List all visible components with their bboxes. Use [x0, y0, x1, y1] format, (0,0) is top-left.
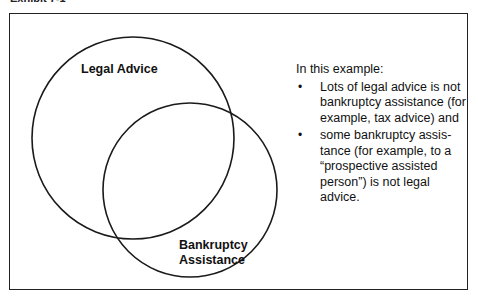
notes-list: • Lots of legal advice is not bankruptcy…: [296, 80, 466, 206]
notes-bullet-item: • some bankruptcy assis-tance (for examp…: [296, 128, 466, 206]
bankruptcy-label-line1: Bankruptcy: [179, 238, 248, 253]
notes-bullet-item: • Lots of legal advice is not bankruptcy…: [296, 80, 466, 127]
legal-advice-label: Legal Advice: [81, 62, 158, 77]
notes-bullet-text: Lots of legal advice is not bankruptcy a…: [320, 80, 466, 125]
notes-intro: In this example:: [296, 62, 466, 78]
explanation-notes: In this example: • Lots of legal advice …: [296, 62, 466, 208]
bankruptcy-assistance-label: Bankruptcy Assistance: [179, 238, 248, 268]
bullet-icon: •: [298, 128, 302, 144]
notes-bullet-text: some bankruptcy assis-tance (for example…: [320, 128, 451, 204]
bullet-icon: •: [298, 80, 302, 96]
bankruptcy-label-line2: Assistance: [179, 253, 248, 268]
